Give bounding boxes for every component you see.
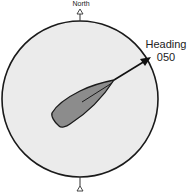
- heading-value: 050: [140, 51, 188, 64]
- heading-label: Heading 050: [140, 38, 188, 64]
- south-marker-icon: [77, 177, 83, 191]
- heading-title: Heading: [140, 38, 188, 51]
- north-marker-icon: [77, 9, 83, 21]
- compass-graphic: [0, 0, 188, 195]
- north-label: North: [66, 0, 96, 8]
